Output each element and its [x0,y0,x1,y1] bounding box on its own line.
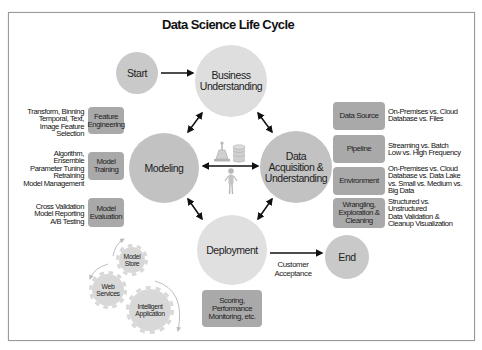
stage-start: Start [116,52,158,94]
step-label-line: Data Source [340,112,379,120]
customer-acceptance-label: Customer Acceptance [274,260,311,278]
detail-line: A/B Testing [0,218,84,225]
detail-line: Model Management [0,180,84,187]
caption-line: Customer [274,260,311,269]
stage-modeling-label: Modeling [144,163,183,174]
model-training-details: Algorithm, Ensemble Parameter Tuning Ret… [0,150,84,187]
step-scoring-monitoring: Scoring, Performance Monitoring, etc. [202,290,262,327]
detail-line: Database vs. Files [388,115,458,122]
stage-label-line: Understanding [200,81,262,92]
stage-label-line: Understanding [265,173,327,184]
step-label-line: Pipeline [347,145,372,153]
stage-end: End [325,235,369,279]
gear-label-intelligent-application: Intelligent Application [135,303,164,317]
step-label-line: Engineering [87,121,124,129]
data-source-details: On-Premises vs. Cloud Database vs. Files [388,108,458,123]
step-data-source: Data Source [333,102,385,130]
gear-label-line: Services [96,290,119,297]
step-wrangling-exploration-cleaning: Wrangling, Exploration & Cleaning [333,198,385,228]
gear-label-model-store: Model Store [124,253,141,267]
gear-label-web-services: Web Services [96,283,119,297]
stage-end-label: End [338,252,355,263]
detail-line: Low vs. High Frequency [388,149,461,156]
gear-label-line: Store [124,260,141,267]
environment-details: On-Premises vs. Cloud Database vs. Data … [388,165,462,195]
step-model-evaluation: Model Evaluation [88,198,124,227]
step-label-line: Training [94,166,119,174]
stage-data-acquisition-understanding: Data Acquisition & Understanding [260,131,332,203]
step-model-training: Model Training [88,152,124,180]
step-label-line: Environment [339,177,378,185]
feature-engineering-details: Transform, Binning Temporal, Text, Image… [0,108,84,138]
stage-label-line: Data [286,151,306,162]
detail-line: Selection [0,130,84,137]
gear-label-line: Web [96,283,119,290]
step-pipeline: Pipeline [333,135,385,163]
step-feature-engineering: Feature Engineering [88,107,124,134]
detail-line: Big Data [388,187,462,194]
gear-label-line: Model [124,253,141,260]
detail-line: Cleanup Visualization [388,220,453,227]
diagram-title: Data Science Life Cycle [0,17,456,32]
model-evaluation-details: Cross Validation Model Reporting A/B Tes… [0,203,84,225]
stage-deployment: Deployment [197,215,267,285]
stage-label-line: Acquisition & [269,162,324,173]
stage-business-understanding: Business Understanding [195,45,267,117]
gear-label-line: Intelligent [135,303,164,310]
step-label-line: Evaluation [90,213,122,221]
wrangling-details: Structured vs. Unstructured Data Validat… [388,198,453,228]
stage-modeling: Modeling [129,133,199,203]
step-label-line: Monitoring, etc. [209,313,256,321]
caption-line: Acceptance [274,269,311,278]
gear-label-line: Application [135,310,164,317]
step-environment: Environment [333,167,385,195]
step-label-line: Cleaning [345,217,373,225]
stage-deployment-label: Deployment [206,245,258,256]
stage-start-label: Start [127,68,147,79]
pipeline-details: Streaming vs. Batch Low vs. High Frequen… [388,142,461,157]
